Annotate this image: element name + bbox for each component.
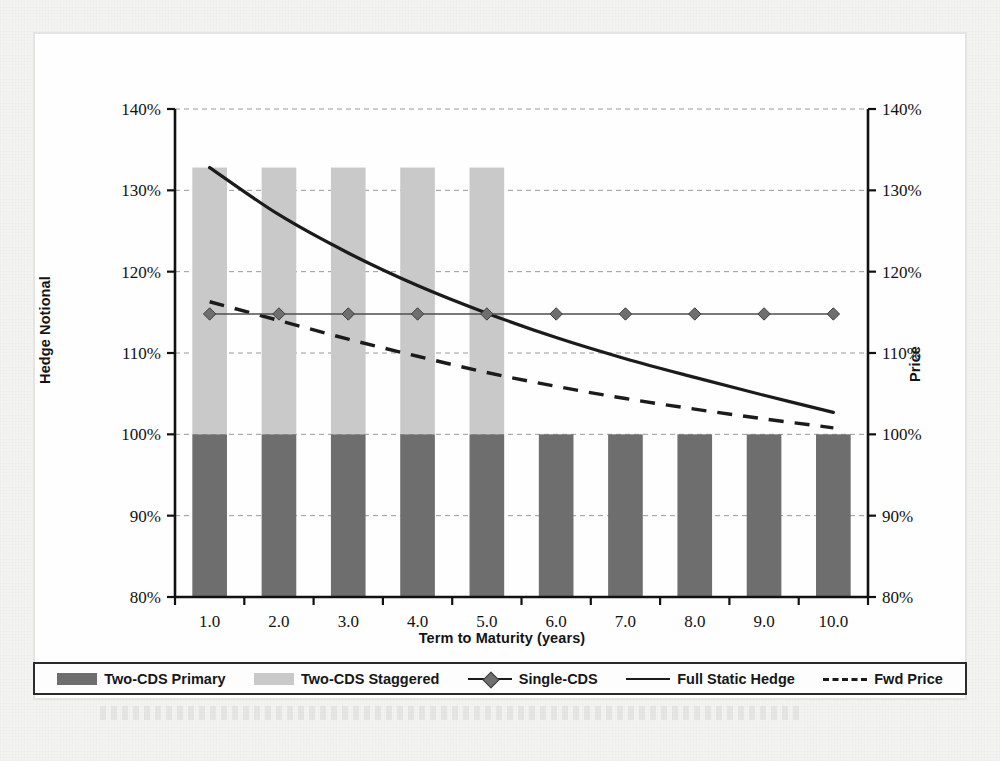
x-tick-label: 8.0 <box>684 612 705 631</box>
y-axis-title-right: Price <box>907 346 923 382</box>
line-full-static-hedge <box>210 168 834 413</box>
y-tick-label-right: 90% <box>882 507 913 526</box>
legend-item[interactable]: Two-CDS Staggered <box>254 671 439 687</box>
y-axis-title-left: Hedge Notional <box>37 276 53 384</box>
legend-swatch-dashed-line-icon <box>823 672 867 686</box>
plot-area-wrapper: 140%140%130%130%120%120%110%110%100%100%… <box>35 34 969 702</box>
x-tick-label: 5.0 <box>476 612 497 631</box>
bar-two-cds-primary <box>262 434 297 597</box>
marker-single-cds <box>758 308 770 320</box>
legend-swatch-bar-icon <box>254 673 294 685</box>
bar-two-cds-primary <box>470 434 505 597</box>
bar-two-cds-staggered <box>470 168 505 435</box>
bar-two-cds-staggered <box>192 168 227 435</box>
marker-single-cds <box>689 308 701 320</box>
figure-page: 140%140%130%130%120%120%110%110%100%100%… <box>0 0 1000 761</box>
y-tick-label-left: 110% <box>122 344 161 363</box>
bar-two-cds-primary <box>331 434 366 597</box>
bar-two-cds-primary <box>608 434 643 597</box>
x-tick-label: 3.0 <box>338 612 359 631</box>
marker-single-cds <box>619 308 631 320</box>
bar-two-cds-primary <box>816 434 851 597</box>
legend-item[interactable]: Two-CDS Primary <box>57 671 225 687</box>
marker-single-cds <box>827 308 839 320</box>
legend-item-label: Two-CDS Primary <box>104 671 225 687</box>
x-tick-label: 7.0 <box>615 612 636 631</box>
chart-legend: Two-CDS PrimaryTwo-CDS StaggeredSingle-C… <box>33 662 967 695</box>
bar-two-cds-staggered <box>331 168 366 435</box>
legend-item-label: Full Static Hedge <box>677 671 795 687</box>
y-tick-label-left: 90% <box>130 507 161 526</box>
bar-two-cds-primary <box>539 434 574 597</box>
chart-canvas: 140%140%130%130%120%120%110%110%100%100%… <box>35 34 969 702</box>
y-tick-label-left: 80% <box>130 588 161 607</box>
legend-item[interactable]: Single-CDS <box>468 671 598 687</box>
x-tick-label: 1.0 <box>199 612 220 631</box>
y-tick-label-left: 120% <box>121 263 161 282</box>
x-tick-label: 4.0 <box>407 612 428 631</box>
legend-item-label: Single-CDS <box>519 671 598 687</box>
legend-item-label: Fwd Price <box>874 671 943 687</box>
bar-two-cds-primary <box>747 434 782 597</box>
x-tick-label: 6.0 <box>546 612 567 631</box>
figure-frame: 140%140%130%130%120%120%110%110%100%100%… <box>33 32 967 700</box>
y-tick-label-right: 140% <box>882 100 922 119</box>
legend-item[interactable]: Fwd Price <box>823 671 943 687</box>
y-tick-label-left: 140% <box>121 100 161 119</box>
clipped-caption-text <box>100 706 800 720</box>
legend-diamond-icon <box>482 671 499 688</box>
x-axis-title: Term to Maturity (years) <box>35 630 969 646</box>
bar-two-cds-staggered <box>400 168 435 435</box>
y-tick-label-right: 120% <box>882 263 922 282</box>
legend-item-label: Two-CDS Staggered <box>301 671 439 687</box>
y-tick-label-right: 100% <box>882 425 922 444</box>
legend-swatch-diamond-line-icon <box>468 672 512 686</box>
bar-two-cds-primary <box>677 434 712 597</box>
y-tick-label-left: 130% <box>121 181 161 200</box>
x-tick-label: 10.0 <box>818 612 848 631</box>
y-tick-label-left: 100% <box>121 425 161 444</box>
line-fwd-price <box>210 302 834 428</box>
legend-swatch-bar-icon <box>57 673 97 685</box>
x-tick-label: 2.0 <box>268 612 289 631</box>
legend-swatch-solid-line-icon <box>626 672 670 686</box>
bar-two-cds-primary <box>192 434 227 597</box>
x-tick-label: 9.0 <box>753 612 774 631</box>
bar-two-cds-primary <box>400 434 435 597</box>
y-tick-label-right: 80% <box>882 588 913 607</box>
legend-item[interactable]: Full Static Hedge <box>626 671 795 687</box>
marker-single-cds <box>550 308 562 320</box>
y-tick-label-right: 130% <box>882 181 922 200</box>
